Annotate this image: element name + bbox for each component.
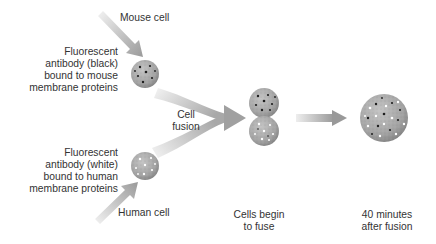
- after-fusion-line-1: 40 minutes: [347, 209, 427, 221]
- human-antibody-line-3: bound to human: [29, 171, 118, 183]
- hybrid-cell: [360, 94, 408, 142]
- human-antibody-line-1: Fluorescent: [29, 147, 118, 159]
- fusing-mouse-cell: [249, 88, 279, 118]
- mouse-antibody-line-3: bound to mouse: [29, 70, 118, 82]
- human-cell: [131, 152, 159, 180]
- fusing-human-cell: [249, 116, 279, 146]
- after-fusion-arrow: [296, 110, 347, 126]
- diagram-graphics: [0, 0, 436, 244]
- mouse-cell-label: Mouse cell: [120, 12, 169, 24]
- after-fusion-line-2: after fusion: [347, 221, 427, 233]
- human-antibody-label: Fluorescent antibody (white) bound to hu…: [29, 147, 118, 195]
- cell-fusion-label: Cell fusion: [164, 109, 208, 133]
- mouse-antibody-line-1: Fluorescent: [29, 46, 118, 58]
- human-cell-label: Human cell: [118, 207, 170, 219]
- human-antibody-line-2: antibody (white): [29, 159, 118, 171]
- cells-begin-line-1: Cells begin: [224, 209, 294, 221]
- human-antibody-line-4: membrane proteins: [29, 183, 118, 195]
- cells-begin-to-fuse-label: Cells begin to fuse: [224, 209, 294, 233]
- after-fusion-label: 40 minutes after fusion: [347, 209, 427, 233]
- mouse-cell: [131, 60, 159, 88]
- cells-begin-line-2: to fuse: [224, 221, 294, 233]
- cell-fusion-line-2: fusion: [164, 121, 208, 133]
- mouse-antibody-line-4: membrane proteins: [29, 82, 118, 94]
- cell-fusion-line-1: Cell: [164, 109, 208, 121]
- fusing-cells: [249, 88, 279, 146]
- mouse-antibody-line-2: antibody (black): [29, 58, 118, 70]
- mouse-antibody-label: Fluorescent antibody (black) bound to mo…: [29, 46, 118, 94]
- cell-fusion-diagram: Mouse cell Fluorescent antibody (black) …: [0, 0, 436, 244]
